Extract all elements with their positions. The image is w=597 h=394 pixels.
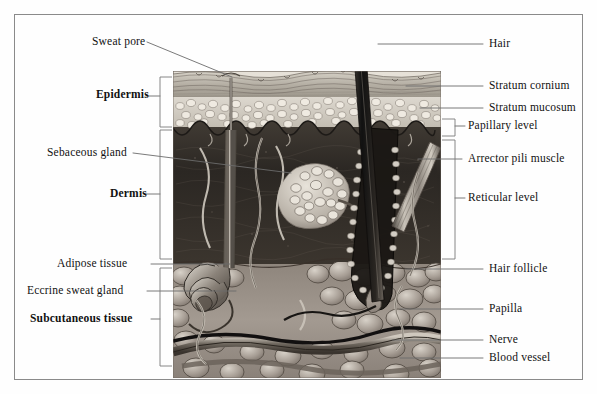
label-reticular-level: Reticular level <box>468 192 538 204</box>
sebaceous-leader <box>133 153 291 173</box>
label-epidermis: Epidermis <box>96 89 149 101</box>
label-eccrine-sweat-gland: Eccrine sweat gland <box>27 285 123 297</box>
subcutaneous-bracket <box>160 268 172 366</box>
label-blood-vessel: Blood vessel <box>489 352 551 364</box>
label-papilla: Papilla <box>489 303 522 315</box>
epidermis-bracket <box>160 77 172 127</box>
label-hair: Hair <box>489 38 510 50</box>
figure-canvas: Sweat pore Epidermis Sebaceous gland Der… <box>0 0 597 394</box>
label-hair-follicle: Hair follicle <box>489 263 547 275</box>
label-adipose-tissue: Adipose tissue <box>57 258 127 270</box>
label-sweat-pore: Sweat pore <box>92 36 145 48</box>
label-subcutaneous-tissue: Subcutaneous tissue <box>30 313 133 325</box>
label-nerve: Nerve <box>489 334 518 346</box>
label-dermis: Dermis <box>110 188 147 200</box>
papillary-bracket <box>442 119 455 136</box>
label-papillary-level: Papillary level <box>468 120 538 132</box>
dermis-bracket <box>160 130 172 259</box>
label-stratum-cornium: Stratum cornium <box>489 80 570 92</box>
label-stratum-mucosum: Stratum mucosum <box>489 102 576 114</box>
reticular-bracket <box>442 140 455 259</box>
label-arrector-pili-muscle: Arrector pili muscle <box>468 153 565 165</box>
label-sebaceous-gland: Sebaceous gland <box>47 147 127 159</box>
sweat-pore-leader <box>147 42 232 77</box>
